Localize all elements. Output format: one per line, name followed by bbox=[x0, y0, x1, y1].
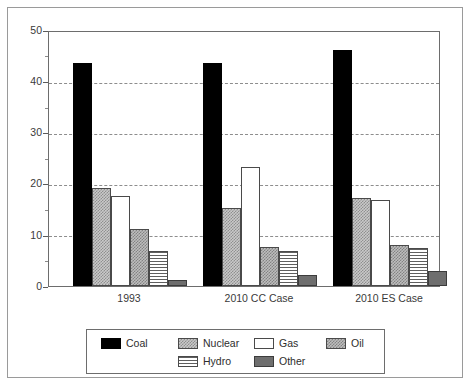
bar-2010es-oil bbox=[390, 245, 409, 286]
legend-label-oil: Oil bbox=[351, 337, 364, 349]
legend-label-nuclear: Nuclear bbox=[203, 337, 239, 349]
bar-2010es-coal bbox=[333, 50, 352, 286]
bar-2010cc-hydro bbox=[279, 251, 298, 286]
y-axis-label-20: 20 bbox=[12, 178, 42, 189]
chart-legend: Coal Nuclear Gas Oil Hydro Other bbox=[86, 329, 385, 374]
bar-2010cc-gas bbox=[241, 167, 260, 286]
bar-1993-nuclear bbox=[92, 188, 111, 286]
bar-1993-hydro bbox=[149, 251, 168, 286]
bar-1993-gas bbox=[111, 196, 130, 286]
x-axis-label-2010-cc: 2010 CC Case bbox=[199, 292, 319, 304]
legend-item-coal: Coal bbox=[101, 337, 148, 349]
bar-2010es-hydro bbox=[409, 248, 428, 286]
bar-1993-coal bbox=[73, 63, 92, 286]
x-axis-label-2010-es: 2010 ES Case bbox=[329, 292, 449, 304]
legend-item-nuclear: Nuclear bbox=[178, 337, 239, 349]
bar-2010es-nuclear bbox=[352, 198, 371, 286]
x-axis-label-1993: 1993 bbox=[69, 292, 189, 304]
legend-item-gas: Gas bbox=[254, 337, 298, 349]
legend-label-other: Other bbox=[279, 355, 305, 367]
y-axis-label-0: 0 bbox=[12, 281, 42, 292]
legend-swatch-other-icon bbox=[254, 356, 274, 367]
y-axis-label-40: 40 bbox=[12, 76, 42, 87]
legend-item-hydro: Hydro bbox=[178, 355, 231, 367]
legend-swatch-coal-icon bbox=[101, 338, 121, 349]
bar-2010es-other bbox=[428, 271, 447, 286]
legend-label-hydro: Hydro bbox=[203, 355, 231, 367]
plot-inner bbox=[49, 32, 439, 286]
legend-swatch-oil-icon bbox=[326, 338, 346, 349]
y-axis-label-10: 10 bbox=[12, 230, 42, 241]
bar-2010cc-coal bbox=[203, 63, 222, 286]
legend-swatch-gas-icon bbox=[254, 338, 274, 349]
bar-1993-other bbox=[168, 280, 187, 286]
bar-2010es-gas bbox=[371, 200, 390, 286]
legend-item-oil: Oil bbox=[326, 337, 364, 349]
y-axis-label-50: 50 bbox=[12, 25, 42, 36]
bar-2010cc-oil bbox=[260, 247, 279, 286]
legend-swatch-hydro-icon bbox=[178, 356, 198, 367]
legend-item-other: Other bbox=[254, 355, 305, 367]
legend-label-coal: Coal bbox=[126, 337, 148, 349]
legend-label-gas: Gas bbox=[279, 337, 298, 349]
bar-2010cc-other bbox=[298, 275, 317, 286]
chart-screenshot: 50 40 30 20 10 0 bbox=[0, 0, 471, 386]
plot-area bbox=[48, 31, 440, 287]
bar-2010cc-nuclear bbox=[222, 208, 241, 286]
y-tick-0 bbox=[43, 287, 48, 288]
gridline-40 bbox=[49, 83, 439, 84]
chart-area: 50 40 30 20 10 0 bbox=[0, 0, 471, 318]
bar-1993-oil bbox=[130, 229, 149, 286]
legend-swatch-nuclear-icon bbox=[178, 338, 198, 349]
y-axis-label-30: 30 bbox=[12, 127, 42, 138]
gridline-30 bbox=[49, 134, 439, 135]
